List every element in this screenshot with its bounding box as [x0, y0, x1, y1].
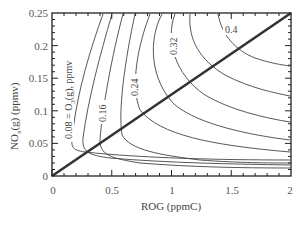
- contour-0.12: [83, 14, 290, 165]
- x-tick-labels: 0 0.5 1 1.5 2: [50, 184, 293, 196]
- x-axis-title: ROG (ppmC): [141, 200, 202, 213]
- y-tick-0.25: 0.25: [29, 7, 49, 19]
- contour-label-0.24: 0.24: [129, 79, 140, 97]
- ozone-isopleth-chart: 0.08 = O3(g), ppmv 0.16 0.24 0.32 0.4: [0, 0, 303, 227]
- x-tick-0.5: 0.5: [105, 184, 119, 196]
- y-tick-labels: 0 0.05 0.1 0.15 0.2 0.25: [29, 7, 49, 182]
- contour-label-0.16: 0.16: [97, 105, 108, 123]
- contour-0.36: [190, 14, 290, 96]
- x-tick-1: 1: [169, 184, 175, 196]
- y-tick-0.05: 0.05: [29, 137, 49, 149]
- contour-label-0.32: 0.32: [168, 38, 179, 56]
- x-tick-0: 0: [50, 184, 56, 196]
- y-tick-0.1: 0.1: [34, 105, 48, 117]
- x-tick-2: 2: [287, 184, 293, 196]
- y-tick-0: 0: [43, 170, 49, 182]
- contour-0.24: [135, 14, 290, 152]
- contour-label-0.4: 0.4: [225, 24, 238, 35]
- contour-label-0.08: 0.08 = O3(g), ppmv: [63, 61, 77, 139]
- contour-0.28: [153, 14, 290, 140]
- y-tick-0.15: 0.15: [29, 72, 49, 84]
- y-tick-0.2: 0.2: [34, 40, 48, 52]
- x-tick-1.5: 1.5: [225, 184, 239, 196]
- y-axis-title: NOx(g) (ppmv): [8, 82, 23, 150]
